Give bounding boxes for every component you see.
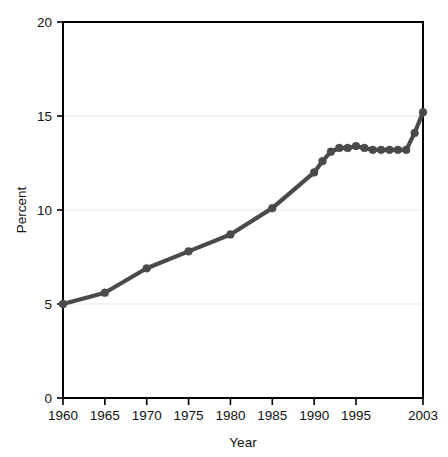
data-point [227, 231, 235, 239]
x-tick-label: 1990 [299, 408, 329, 423]
y-tick-label: 0 [44, 391, 52, 406]
y-axis-title: Percent [14, 186, 29, 233]
data-point [59, 300, 67, 308]
line-chart: 05101520 1960196519701975198019851990199… [0, 0, 448, 457]
data-point [344, 144, 352, 152]
data-point [319, 157, 327, 165]
x-tick-label: 1970 [132, 408, 162, 423]
data-point [101, 289, 109, 297]
data-point [361, 144, 369, 152]
y-tick-label: 20 [37, 15, 52, 30]
x-axis-ticks: 196019651970197519801985199019952003 [48, 398, 438, 423]
data-point [411, 129, 419, 137]
y-axis-ticks: 05101520 [37, 15, 63, 406]
y-tick-label: 15 [37, 109, 52, 124]
data-point [386, 146, 394, 154]
x-tick-label: 1985 [257, 408, 287, 423]
data-point [419, 108, 427, 116]
data-point [377, 146, 385, 154]
x-tick-label: 1965 [90, 408, 120, 423]
data-point [185, 247, 193, 255]
data-point [394, 146, 402, 154]
data-point [310, 169, 318, 177]
x-tick-label: 1980 [215, 408, 245, 423]
chart-figure: 05101520 1960196519701975198019851990199… [0, 0, 448, 457]
x-tick-label: 1960 [48, 408, 78, 423]
data-point [143, 264, 151, 272]
x-tick-label: 1995 [341, 408, 371, 423]
x-tick-label: 2003 [408, 408, 438, 423]
data-point [268, 204, 276, 212]
x-axis-title: Year [229, 435, 257, 450]
data-point [369, 146, 377, 154]
data-point [335, 144, 343, 152]
x-tick-label: 1975 [174, 408, 204, 423]
y-tick-label: 5 [44, 297, 52, 312]
data-point [352, 142, 360, 150]
y-tick-label: 10 [37, 203, 52, 218]
data-point [327, 148, 335, 156]
data-point [402, 146, 410, 154]
